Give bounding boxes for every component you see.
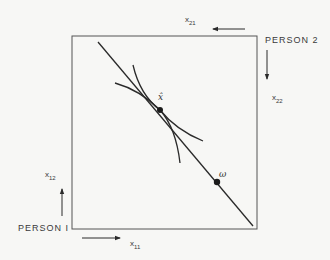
edgeworth-box-diagram: x̂ ω PERSON 2 PERSON I x21 x22 x12 x11 <box>0 0 330 260</box>
edgeworth-box <box>72 36 257 229</box>
x11-label: x11 <box>130 239 141 250</box>
xhat-point <box>157 107 163 113</box>
person-1-label: PERSON I <box>18 223 69 233</box>
x12-label: x12 <box>45 170 56 181</box>
omega-point <box>214 179 220 185</box>
indifference-curve-steep <box>133 65 180 163</box>
omega-label: ω <box>219 169 227 179</box>
x22-label: x22 <box>272 93 283 104</box>
budget-line <box>98 42 253 226</box>
x21-label: x21 <box>185 15 196 26</box>
person-2-label: PERSON 2 <box>265 35 319 45</box>
xhat-label: x̂ <box>158 92 163 102</box>
